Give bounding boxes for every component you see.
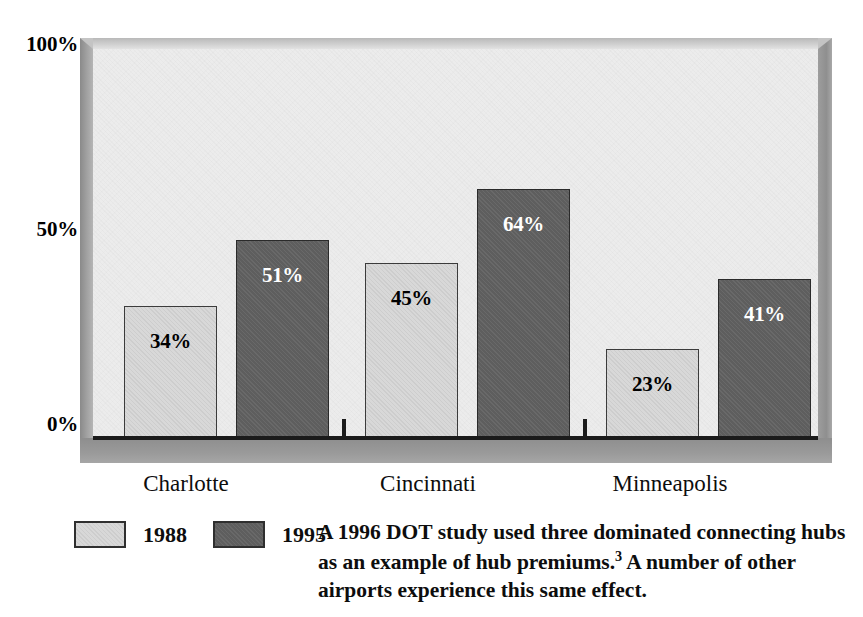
y-axis-tick-100: 100% [6,34,78,55]
bar-cincinnati-1995[interactable]: 64% [477,189,570,438]
frame-bevel-top [80,38,832,49]
y-axis-tick-50: 50% [6,219,78,240]
plot-frame: 34% 51% 45% 64% 23% 41% [80,38,832,463]
legend-label: 1988 [143,524,187,546]
caption-line-1: A 1996 DOT study used three dominated co… [318,520,796,544]
frame-bevel-bottom [80,438,832,463]
frame-bevel-right [818,38,832,463]
bar-value-label: 41% [719,304,810,325]
bar-value-label: 45% [366,288,457,309]
legend-entry-1995[interactable]: 1995 [213,521,326,548]
y-axis-tick-0: 0% [6,414,78,435]
plot-area: 34% 51% 45% 64% 23% 41% [93,49,818,438]
bar-value-label: 51% [237,265,328,286]
legend-swatch-icon [213,521,265,548]
bar-value-label: 23% [607,374,698,395]
x-axis-category-minneapolis: Minneapolis [570,472,770,495]
bar-value-label: 34% [125,331,216,352]
bar-value-label: 64% [478,214,569,235]
frame-corner-top-left [80,38,93,49]
chart-caption: A 1996 DOT study used three dominated co… [318,518,850,605]
bar-chart-figure: 100% 50% 0% 34% 51% 45% 64% [0,0,863,617]
bar-minneapolis-1995[interactable]: 41% [718,279,811,438]
legend-swatch-icon [74,521,126,548]
bar-minneapolis-1988[interactable]: 23% [606,349,699,438]
legend-entry-1988[interactable]: 1988 [74,521,187,548]
frame-corner-top-right [818,38,832,49]
bar-cincinnati-1988[interactable]: 45% [365,263,458,438]
frame-bevel-left [80,38,93,463]
x-axis-category-cincinnati: Cincinnati [338,472,518,495]
bar-charlotte-1988[interactable]: 34% [124,306,217,438]
caption-line-2-b: A number [622,550,718,574]
bar-charlotte-1995[interactable]: 51% [236,240,329,438]
x-axis-baseline [93,436,818,440]
x-axis-category-charlotte: Charlotte [96,472,276,495]
y-axis: 100% 50% 0% [0,34,78,462]
